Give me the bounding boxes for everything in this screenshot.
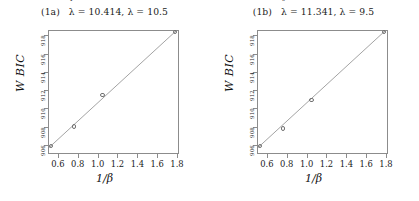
panel-title-1a: (1a)ˇλ = 10.414, λ = 10.5 (0, 6, 209, 17)
data-point-marker (258, 144, 262, 148)
lambda-hat-symbol-1a: ˇλ = 10.414, (69, 6, 125, 17)
data-point-marker (49, 144, 53, 148)
x-tick-label: 1.2 (320, 159, 333, 169)
y-tick-label: 912 (249, 90, 255, 101)
panel-tag-1b: (1b) (253, 6, 272, 17)
y-axis-label-1a: W BIC (14, 54, 27, 92)
x-tick-label: 1.2 (111, 159, 124, 169)
y-tick-label: 916 (249, 54, 255, 65)
y-tick-label: 906 (249, 145, 255, 156)
y-tick-label: 906 (40, 145, 46, 156)
y-tick-label: 908 (249, 127, 255, 138)
x-tick-mark (287, 154, 288, 158)
y-axis-label-1b: W BIC (223, 54, 236, 92)
y-tick-label: 916 (40, 54, 46, 65)
data-point-marker (281, 126, 285, 130)
panel-title-1b: (1b)ˆλ = 11.341, λ = 9.5 (209, 6, 418, 17)
y-tick-label: 912 (40, 90, 46, 101)
x-tick-label: 0.8 (280, 159, 293, 169)
x-tick-mark (326, 154, 327, 158)
hat-accent-icon: ˇ (69, 0, 73, 8)
panel-tag-1a: (1a) (41, 6, 60, 17)
x-tick-mark (78, 154, 79, 158)
data-point-marker (100, 93, 104, 97)
plot-area-1a: 906908910912914916918 0.60.81.01.21.41.6… (48, 30, 179, 154)
x-tick-mark (58, 154, 59, 158)
y-tick-label: 914 (40, 72, 46, 83)
x-tick-label: 0.6 (260, 159, 273, 169)
x-tick-mark (386, 154, 387, 158)
lambda-hat-symbol-1b: ˆλ = 11.341, (281, 6, 337, 17)
x-tick-mark (98, 154, 99, 158)
x-axis-label-1b: 1/β (209, 172, 418, 185)
x-tick-label: 1.6 (150, 159, 163, 169)
plot-canvas-1a (48, 30, 179, 154)
y-tick-label: 918 (40, 35, 46, 46)
x-tick-mark (346, 154, 347, 158)
x-tick-label: 1.8 (379, 159, 392, 169)
x-tick-label: 1.4 (131, 159, 144, 169)
x-tick-mark (177, 154, 178, 158)
panel-lambda-hat-1b: λ = 11.341, (281, 6, 337, 17)
x-tick-mark (117, 154, 118, 158)
y-tick-label: 914 (249, 72, 255, 83)
x-tick-label: 0.8 (71, 159, 84, 169)
panel-lambda-1b: λ = 9.5 (340, 6, 375, 17)
chart-panel-1b: (1b)ˆλ = 11.341, λ = 9.5 W BIC 906908910… (209, 0, 418, 201)
x-axis-label-1a: 1/β (0, 172, 209, 185)
x-tick-mark (366, 154, 367, 158)
y-tick-label: 910 (40, 108, 46, 119)
plot-canvas-1b (257, 30, 388, 154)
data-point-marker (72, 124, 76, 128)
x-tick-label: 1.4 (340, 159, 353, 169)
x-tick-label: 0.6 (51, 159, 64, 169)
x-tick-mark (137, 154, 138, 158)
hat-accent-icon: ˆ (282, 0, 286, 8)
y-tick-label: 910 (249, 108, 255, 119)
regression-line-1b (257, 30, 388, 154)
y-tick-label: 918 (249, 35, 255, 46)
panel-lambda-hat-1a: λ = 10.414, (69, 6, 125, 17)
regression-line-1a (48, 30, 179, 154)
x-tick-label: 1.8 (170, 159, 183, 169)
x-tick-mark (307, 154, 308, 158)
panel-lambda-1a: λ = 10.5 (127, 6, 168, 17)
x-tick-label: 1.6 (359, 159, 372, 169)
x-tick-mark (267, 154, 268, 158)
x-tick-label: 1.0 (91, 159, 104, 169)
chart-panel-1a: (1a)ˇλ = 10.414, λ = 10.5 W BIC 90690891… (0, 0, 209, 201)
figure-panel-group: (1a)ˇλ = 10.414, λ = 10.5 W BIC 90690891… (0, 0, 419, 201)
plot-area-1b: 906908910912914916918 0.60.81.01.21.41.6… (257, 30, 388, 154)
x-tick-label: 1.0 (300, 159, 313, 169)
y-tick-label: 908 (40, 127, 46, 138)
x-tick-mark (157, 154, 158, 158)
